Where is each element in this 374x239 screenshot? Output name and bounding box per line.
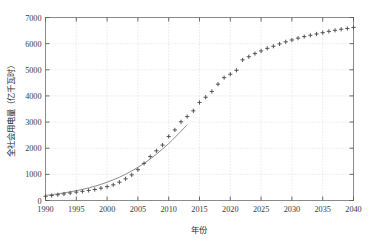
x-axis-tick-label: 2040 [345, 205, 361, 214]
figure-background [0, 0, 374, 239]
y-axis-tick-label: 1000 [25, 170, 41, 179]
x-axis-tick-label: 1995 [68, 205, 84, 214]
y-axis-tick-label: 6000 [25, 40, 41, 49]
x-axis-tick-label: 2010 [161, 205, 177, 214]
x-axis-tick-label: 2000 [99, 205, 115, 214]
chart-figure: 01000200030004000500060007000 1990199520… [0, 0, 374, 239]
y-axis-tick-label: 3000 [25, 118, 41, 127]
y-axis-tick-label: 7000 [25, 14, 41, 23]
chart-canvas: 01000200030004000500060007000 1990199520… [0, 0, 374, 239]
x-axis-tick-label: 1990 [37, 205, 53, 214]
x-axis-title: 年份 [191, 225, 208, 235]
x-axis-tick-label: 2030 [284, 205, 300, 214]
x-axis-tick-label: 2020 [222, 205, 238, 214]
x-axis-tick-label: 2005 [130, 205, 146, 214]
y-axis-tick-label: 5000 [25, 66, 41, 75]
y-axis-tick-label: 2000 [25, 144, 41, 153]
y-axis-tick-label: 4000 [25, 92, 41, 101]
x-axis-tick-label: 2025 [253, 205, 269, 214]
x-axis-tick-label: 2035 [315, 205, 331, 214]
y-axis-title: 全社会用电量（亿千瓦时） [6, 61, 16, 157]
x-axis-tick-label: 2015 [191, 205, 207, 214]
